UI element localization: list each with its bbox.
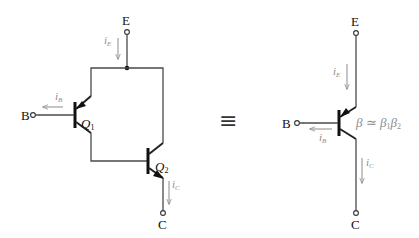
top-rail-wire [91, 68, 163, 143]
left-ic-label: iC [172, 178, 180, 192]
transistor-q1: Q1 [75, 96, 94, 133]
left-emitter-terminal [125, 30, 130, 35]
left-collector-terminal [161, 211, 166, 216]
right-circuit: E iE B iB β ≃ β1β2 C iC [282, 14, 401, 232]
darlington-diagram: E iE Q1 B iB Q2 [0, 0, 419, 238]
left-ie-label: iE [104, 34, 112, 48]
left-base-terminal [31, 113, 36, 118]
right-collector-label: C [351, 217, 360, 232]
q1-q2-link-wire [91, 133, 147, 161]
left-base-label: B [21, 108, 30, 123]
right-base-terminal [295, 121, 300, 126]
right-base-label: B [282, 116, 291, 131]
left-collector-label: C [158, 217, 167, 232]
equivalence-symbol: ≡ [219, 108, 237, 133]
equivalent-emitter-arrow [340, 108, 350, 117]
left-circuit: E iE Q1 B iB Q2 [21, 13, 180, 232]
right-ie-label: iE [333, 65, 341, 79]
right-ic-label: iC [366, 156, 374, 170]
transistor-q2: Q2 [148, 143, 168, 179]
q1-label: Q1 [81, 116, 94, 132]
q2-label: Q2 [155, 159, 168, 175]
right-ib-label: iB [319, 131, 327, 145]
right-emitter-terminal [354, 31, 359, 36]
beta-relation: β ≃ β1β2 [355, 115, 401, 131]
left-emitter-label: E [122, 13, 130, 28]
left-ib-label: iB [55, 90, 63, 104]
right-emitter-label: E [351, 14, 359, 29]
right-collector-terminal [354, 211, 359, 216]
equivalent-transistor [339, 107, 356, 139]
